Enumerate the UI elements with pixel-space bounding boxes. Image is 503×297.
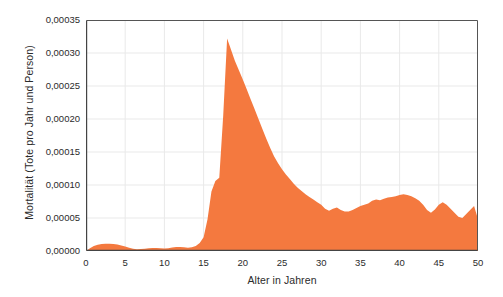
x-tick-label: 30 xyxy=(301,257,341,268)
x-tick-label: 50 xyxy=(458,257,498,268)
y-tick-label: 0,00010 xyxy=(28,180,80,190)
y-tick-label: 0,00035 xyxy=(28,15,80,25)
y-tick-label: 0,00030 xyxy=(28,48,80,58)
y-tick-label: 0,00000 xyxy=(28,246,80,256)
y-axis-tick-labels: 0,000000,000050,000100,000150,000200,000… xyxy=(28,0,80,297)
x-tick-label: 0 xyxy=(66,257,106,268)
area-chart-svg xyxy=(86,20,478,251)
x-tick-label: 45 xyxy=(419,257,459,268)
y-tick-label: 0,00005 xyxy=(28,213,80,223)
x-tick-label: 15 xyxy=(184,257,224,268)
x-axis-tick-labels: 05101520253035404550 xyxy=(0,257,503,271)
x-tick-label: 20 xyxy=(223,257,263,268)
x-tick-label: 35 xyxy=(340,257,380,268)
x-tick-label: 40 xyxy=(380,257,420,268)
plot-area xyxy=(86,20,478,251)
chart-figure: Mortalität (Tote pro Jahr und Person) 0,… xyxy=(0,0,503,297)
y-tick-label: 0,00020 xyxy=(28,114,80,124)
x-axis-label: Alter in Jahren xyxy=(86,274,478,286)
x-tick-label: 10 xyxy=(144,257,184,268)
y-tick-label: 0,00025 xyxy=(28,81,80,91)
x-tick-label: 25 xyxy=(262,257,302,268)
y-tick-label: 0,00015 xyxy=(28,147,80,157)
x-tick-label: 5 xyxy=(105,257,145,268)
